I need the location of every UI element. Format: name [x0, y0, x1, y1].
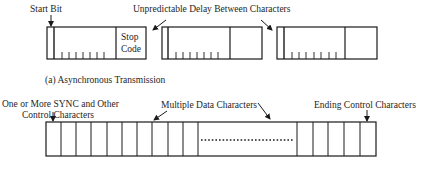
stop-code-label-line2: Code — [121, 44, 141, 55]
async-character-3 — [277, 27, 377, 59]
sync-frame — [46, 122, 376, 156]
delay-arrow-right-icon — [261, 20, 272, 30]
async-caption: (a) Asynchronous Transmission — [45, 75, 165, 86]
sync-control-label-line2: Control Characters — [22, 110, 94, 121]
delay-arrow-left-icon — [153, 20, 166, 30]
leading-character-dividers — [61, 122, 198, 156]
data-bit-ticks — [62, 52, 104, 59]
data-arrow-right-icon — [258, 103, 270, 119]
stop-code-label-line1: Stop — [121, 32, 138, 43]
data-arrow-left-icon — [154, 111, 167, 120]
start-bit-label: Start Bit — [30, 4, 62, 15]
ending-control-label: Ending Control Characters — [314, 100, 416, 111]
async-character-2 — [162, 27, 262, 59]
trailing-character-dividers — [297, 122, 360, 156]
delay-label: Unpredictable Delay Between Characters — [133, 4, 290, 15]
transmission-diagram — [0, 0, 421, 173]
sync-control-label-line1: One or More SYNC and Other — [2, 99, 119, 110]
data-characters-label: Multiple Data Characters — [161, 100, 257, 111]
